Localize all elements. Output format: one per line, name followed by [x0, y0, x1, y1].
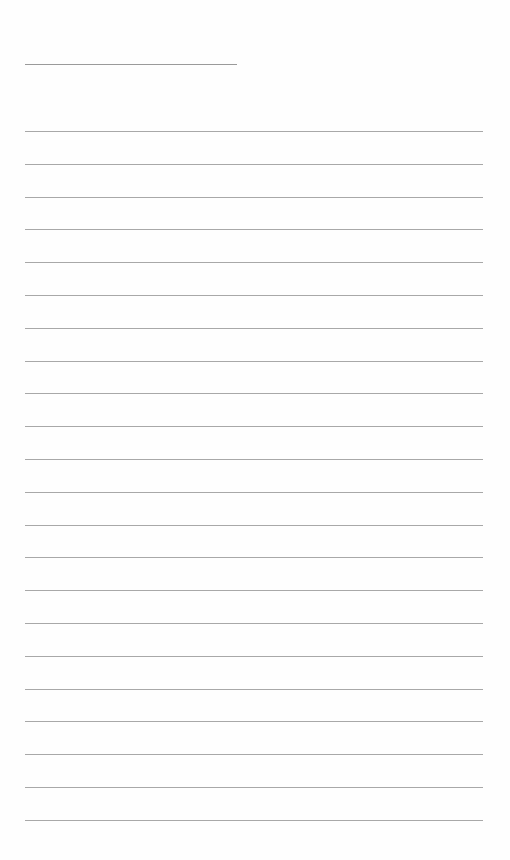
ruled-line: [25, 361, 483, 362]
ruled-line: [25, 164, 483, 165]
ruled-line: [25, 393, 483, 394]
ruled-line: [25, 426, 483, 427]
ruled-line: [25, 557, 483, 558]
ruled-line: [25, 262, 483, 263]
ruled-line: [25, 689, 483, 690]
ruled-line: [25, 820, 483, 821]
ruled-line: [25, 197, 483, 198]
ruled-line: [25, 229, 483, 230]
ruled-line: [25, 787, 483, 788]
ruled-line: [25, 623, 483, 624]
ruled-line: [25, 754, 483, 755]
ruled-line: [25, 492, 483, 493]
ruled-line: [25, 525, 483, 526]
ruled-line: [25, 328, 483, 329]
ruled-line: [25, 590, 483, 591]
ruled-line: [25, 721, 483, 722]
title-underline: [25, 64, 237, 65]
ruled-line: [25, 656, 483, 657]
ruled-line: [25, 295, 483, 296]
ruled-line: [25, 131, 483, 132]
lined-paper-page: [0, 0, 510, 860]
ruled-line: [25, 459, 483, 460]
